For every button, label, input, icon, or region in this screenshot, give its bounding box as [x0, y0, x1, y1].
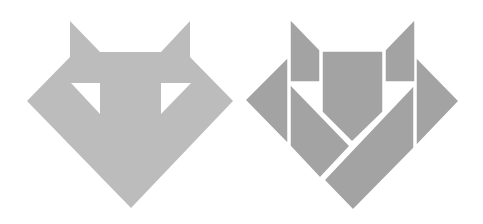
fox-tangram-dissection [245, 19, 459, 210]
tangram-piece-right-triangle [416, 57, 459, 146]
tangram-piece-right-ear [385, 19, 415, 82]
fox-outline-shape [27, 21, 233, 208]
tangram-fox-figure [0, 0, 483, 224]
tangram-piece-left-triangle [245, 57, 288, 144]
tangram-piece-left-ear [290, 19, 320, 82]
fox-silhouette [27, 21, 233, 208]
